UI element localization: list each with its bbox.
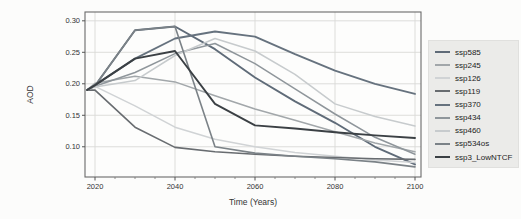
legend-item-ssp126: ssp126	[435, 72, 514, 84]
legend-label: ssp126	[455, 74, 481, 83]
legend-label: ssp534os	[455, 139, 489, 148]
legend-item-ssp119: ssp119	[435, 85, 514, 97]
legend-item-ssp245: ssp245	[435, 59, 514, 71]
legend-item-ssp370: ssp370	[435, 99, 514, 111]
legend-item-ssp434: ssp434	[435, 112, 514, 124]
y-axis-label: AOD	[25, 85, 35, 103]
x-axis-tick-label: 2020	[87, 182, 104, 191]
legend-line-swatch	[435, 156, 450, 158]
legend: ssp585ssp245ssp126ssp119ssp370ssp434ssp4…	[429, 41, 518, 167]
legend-line-swatch	[435, 77, 450, 79]
x-axis-tick-label: 2100	[407, 182, 424, 191]
y-axis-tick-label: 0.20	[65, 79, 80, 88]
legend-item-ssp3_LowNTCF: ssp3_LowNTCF	[435, 151, 514, 163]
legend-label: ssp434	[455, 113, 481, 122]
legend-line-swatch	[435, 51, 450, 53]
legend-line-swatch	[435, 90, 450, 92]
legend-label: ssp370	[455, 100, 481, 109]
legend-line-swatch	[435, 143, 450, 145]
x-axis-tick-label: 2080	[327, 182, 344, 191]
legend-label: ssp119	[455, 87, 480, 96]
legend-label: ssp245	[455, 61, 481, 70]
x-axis-label: Time (Years)	[229, 197, 277, 207]
legend-label: ssp3_LowNTCF	[455, 153, 512, 162]
legend-line-swatch	[435, 117, 450, 119]
x-axis-tick-label: 2040	[167, 182, 184, 191]
legend-item-ssp585: ssp585	[435, 46, 514, 58]
legend-label: ssp460	[455, 126, 481, 135]
legend-item-ssp534os: ssp534os	[435, 138, 514, 150]
y-axis-tick-label: 0.25	[65, 48, 80, 57]
y-axis-tick-label: 0.30	[65, 16, 80, 25]
legend-item-ssp460: ssp460	[435, 125, 514, 137]
legend-line-swatch	[435, 64, 450, 66]
y-axis-tick-label: 0.15	[65, 111, 80, 120]
legend-line-swatch	[435, 130, 450, 132]
aod-line-chart-figure: 0.300.250.200.150.1020202040206020802100…	[0, 0, 521, 219]
x-axis-tick-label: 2060	[247, 182, 264, 191]
legend-label: ssp585	[455, 48, 481, 57]
legend-line-swatch	[435, 104, 450, 106]
y-axis-tick-label: 0.10	[65, 142, 80, 151]
